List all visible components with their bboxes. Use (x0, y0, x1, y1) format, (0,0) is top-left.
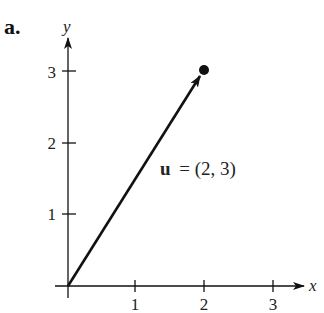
y-tick-label-2: 2 (48, 134, 57, 153)
x-axis-name: x (308, 276, 317, 295)
x-tick-label-2: 2 (200, 295, 209, 313)
y-tick-label-1: 1 (48, 205, 57, 224)
vector-plot: 1 2 3 1 2 3 x y u = (2, 3) (0, 0, 324, 313)
vector-components: = (2, 3) (179, 158, 236, 180)
x-tick-label-1: 1 (131, 295, 140, 313)
vector-u (68, 76, 200, 286)
y-tick-label-3: 3 (48, 63, 57, 82)
vector-endpoint-dot (199, 65, 209, 75)
y-ticks (62, 71, 76, 214)
y-axis-name: y (61, 17, 71, 36)
vector-label: u = (2, 3) (160, 158, 236, 180)
vector-name: u (160, 158, 171, 179)
x-tick-label-3: 3 (269, 295, 278, 313)
